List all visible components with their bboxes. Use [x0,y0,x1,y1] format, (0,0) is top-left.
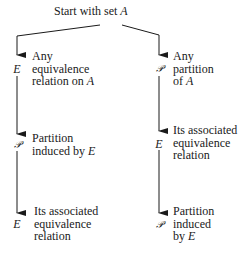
title-variable: A [120,4,127,18]
right-symbol-3: 𝒫 [152,219,166,231]
line: induced by E [32,145,95,158]
left-symbol-1: E [10,63,24,75]
right-step-1-text: Any partition of A [173,50,214,88]
line: Its associated [34,205,98,218]
line: Any [32,50,94,63]
right-symbol-1: 𝒫 [152,63,166,75]
title-text: Start with set [54,4,117,18]
left-step-1-text: Any equivalence relation on A [32,50,94,88]
line: relation [173,149,237,162]
right-step-3-text: Partition induced by E [173,205,214,243]
line: by E [173,230,214,243]
line: relation [34,230,98,243]
diagram-title: Start with set A [54,5,128,18]
left-symbol-3: E [10,218,24,230]
line: relation on A [32,75,94,88]
right-branch-arrow [122,25,159,55]
line: of A [173,75,214,88]
left-step-3-text: Its associated equivalence relation [34,205,98,243]
line: Any [173,50,214,63]
right-symbol-2: E [152,138,166,150]
equivalence-partition-diagram: Start with set A E Any equivalence relat… [0,0,242,257]
line: Its associated [173,124,237,137]
left-symbol-2: 𝒫 [10,139,24,151]
right-step-2-text: Its associated equivalence relation [173,124,237,162]
line: Partition [173,205,214,218]
left-step-2-text: Partition induced by E [32,132,95,157]
